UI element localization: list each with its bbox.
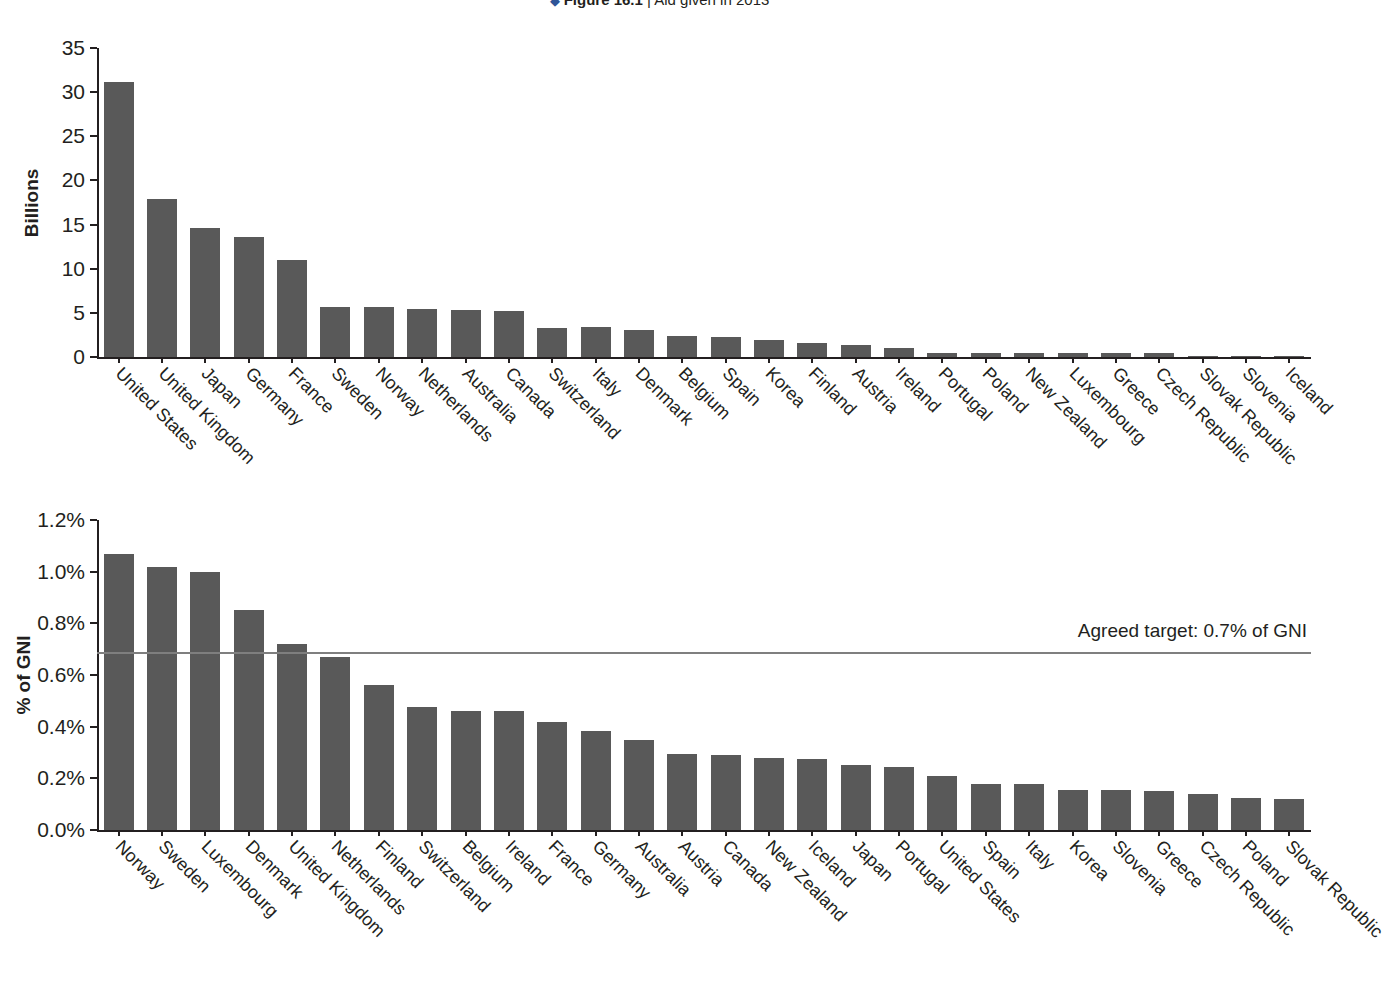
x-axis-tick (638, 830, 640, 836)
y-axis-line (97, 520, 99, 832)
x-axis-tick (421, 357, 423, 363)
x-axis-label: Korea (1066, 837, 1113, 884)
chart-panel-billions: 05101520253035BillionsUnited StatesUnite… (0, 20, 1319, 500)
x-axis-tick (941, 357, 943, 363)
bar[interactable] (190, 228, 220, 357)
bar[interactable] (927, 776, 957, 830)
x-axis-tick (941, 830, 943, 836)
bar[interactable] (537, 722, 567, 831)
bar[interactable] (277, 644, 307, 830)
x-axis-tick (378, 357, 380, 363)
bar[interactable] (667, 336, 697, 357)
bar[interactable] (667, 754, 697, 830)
x-axis-line (97, 357, 1311, 359)
bar[interactable] (841, 345, 871, 357)
y-axis-tick (90, 622, 97, 624)
y-axis-title: % of GNI (13, 575, 35, 775)
x-axis-tick (638, 357, 640, 363)
x-axis-tick (118, 357, 120, 363)
x-axis-tick (465, 357, 467, 363)
x-axis-tick (248, 830, 250, 836)
bar[interactable] (754, 758, 784, 830)
y-axis-tick (90, 312, 97, 314)
y-axis-tick-label: 1.2% (0, 509, 85, 530)
x-axis-tick (1288, 830, 1290, 836)
x-axis-tick (1288, 357, 1290, 363)
bar[interactable] (1101, 790, 1131, 830)
bar[interactable] (277, 260, 307, 357)
bar[interactable] (147, 567, 177, 831)
x-axis-label: Italy (589, 364, 625, 400)
x-axis-tick (985, 830, 987, 836)
bar[interactable] (320, 657, 350, 830)
x-axis-tick (1028, 357, 1030, 363)
bar[interactable] (451, 310, 481, 357)
y-axis-tick (90, 179, 97, 181)
bar[interactable] (147, 199, 177, 357)
bar[interactable] (841, 765, 871, 830)
figure-caption: ◆Figure 16.1 | Aid given in 2013 (0, 0, 1319, 8)
bar[interactable] (451, 711, 481, 830)
x-axis-tick (1028, 830, 1030, 836)
x-axis-tick (508, 357, 510, 363)
bar[interactable] (1231, 798, 1261, 830)
x-axis-tick (681, 830, 683, 836)
bar[interactable] (711, 337, 741, 357)
bar[interactable] (494, 311, 524, 357)
bar[interactable] (884, 348, 914, 357)
y-axis-tick (90, 519, 97, 521)
bar[interactable] (364, 307, 394, 357)
x-axis-tick (204, 830, 206, 836)
bar[interactable] (320, 307, 350, 357)
caption-separator: | (643, 0, 654, 8)
bar[interactable] (537, 328, 567, 357)
bar[interactable] (234, 610, 264, 830)
bar[interactable] (190, 572, 220, 830)
bar[interactable] (797, 343, 827, 357)
bar[interactable] (1188, 794, 1218, 830)
x-axis-tick (1158, 830, 1160, 836)
y-axis-tick (90, 224, 97, 226)
bar[interactable] (971, 784, 1001, 831)
bar[interactable] (1144, 791, 1174, 830)
y-axis-tick (90, 726, 97, 728)
x-axis-label: Ireland (892, 364, 944, 416)
y-axis-tick (90, 829, 97, 831)
y-axis-tick-label: 0.0% (0, 819, 85, 840)
bar[interactable] (1274, 799, 1304, 830)
x-axis-tick (595, 830, 597, 836)
bar[interactable] (104, 82, 134, 357)
x-axis-tick (161, 830, 163, 836)
x-axis-tick (985, 357, 987, 363)
y-axis-tick (90, 674, 97, 676)
bar[interactable] (754, 340, 784, 357)
bar[interactable] (407, 707, 437, 830)
x-axis-tick (595, 357, 597, 363)
bar[interactable] (624, 330, 654, 357)
figure-number: Figure 16.1 (564, 0, 643, 8)
bar[interactable] (104, 554, 134, 830)
bar[interactable] (581, 731, 611, 830)
bar[interactable] (1014, 784, 1044, 831)
bar[interactable] (494, 711, 524, 830)
y-axis-tick (90, 571, 97, 573)
y-axis-tick (90, 777, 97, 779)
figure-title: Aid given in 2013 (654, 0, 769, 8)
bar[interactable] (364, 685, 394, 830)
x-axis-tick (291, 830, 293, 836)
x-axis-tick (248, 357, 250, 363)
y-axis-tick (90, 135, 97, 137)
x-axis-tick (725, 830, 727, 836)
y-axis-tick-label: 0 (0, 346, 85, 367)
y-axis-tick (90, 47, 97, 49)
agreed-target-label: Agreed target: 0.7% of GNI (1078, 620, 1307, 642)
bar[interactable] (884, 767, 914, 830)
bar[interactable] (234, 237, 264, 357)
bar[interactable] (711, 755, 741, 830)
bar[interactable] (581, 327, 611, 357)
bar[interactable] (407, 309, 437, 357)
bar[interactable] (1058, 790, 1088, 830)
bar[interactable] (797, 759, 827, 830)
bar[interactable] (624, 740, 654, 830)
x-axis-tick (161, 357, 163, 363)
